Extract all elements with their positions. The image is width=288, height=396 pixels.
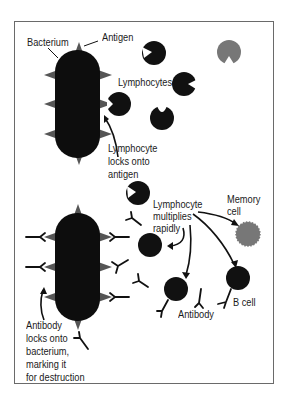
memory-cell: [236, 222, 260, 246]
label-memory-line1: Memory: [227, 193, 260, 206]
label-ab-lock-line1: Antibody: [26, 319, 62, 332]
label-lock-line3: antigen: [108, 168, 138, 181]
label-memory-line2: cell: [227, 205, 241, 218]
label-ab-lock-line2: locks onto: [26, 332, 68, 345]
label-antigen: Antigen: [102, 31, 133, 44]
label-multiply-line2: multiplies: [153, 210, 192, 223]
label-multiply-line3: rapidly: [153, 222, 180, 235]
label-ab-lock-line4: marking it: [26, 358, 66, 371]
b-cell: [226, 266, 250, 290]
label-ab-lock-line5: for destruction: [26, 371, 85, 384]
label-lock-line1: Lymphocyte: [108, 142, 157, 155]
label-ab-lock-line3: bacterium,: [26, 345, 69, 358]
label-bacterium: Bacterium: [27, 36, 69, 49]
daughter-cell-2: [164, 277, 188, 301]
label-lymphocytes: Lymphocytes: [118, 76, 172, 89]
label-lock-line2: locks onto: [108, 155, 150, 168]
bacterium-top: [55, 50, 100, 158]
label-antibody: Antibody: [178, 308, 214, 321]
daughter-cell-1: [138, 233, 162, 257]
label-multiply-line1: Lymphocyte: [153, 198, 202, 211]
bacterium-bottom: [55, 213, 100, 321]
label-b-cell: B cell: [233, 296, 256, 309]
